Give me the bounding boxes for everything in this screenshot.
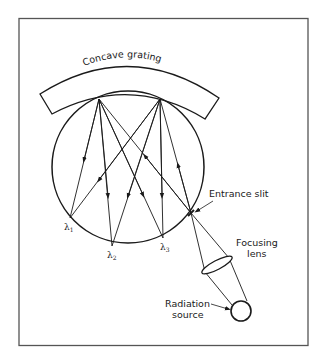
lambda1-subscript: 1 xyxy=(70,226,74,233)
focusing-lens-label-line1: Focusing xyxy=(236,237,278,248)
concave-grating-diagram: Concave grating Entrance slit Focusing l… xyxy=(0,0,327,359)
light-rays xyxy=(70,99,247,305)
radiation-source-label-line1: Radiation xyxy=(165,298,210,309)
focusing-lens xyxy=(200,253,234,277)
lambda2-label: λ2 xyxy=(107,250,117,261)
lambda3-label: λ3 xyxy=(160,242,170,253)
concave-grating xyxy=(40,66,219,119)
radiation-source-label-line2: source xyxy=(172,309,204,320)
grating-label: Concave grating xyxy=(81,48,163,67)
lambda1-label: λ1 xyxy=(64,222,74,233)
figure-frame xyxy=(19,19,308,346)
grating-label-text: Concave grating xyxy=(81,48,163,67)
radiation-source xyxy=(231,301,251,321)
entrance-slit-leader xyxy=(197,201,213,211)
entrance-slit-label: Entrance slit xyxy=(209,188,269,199)
rowland-circle xyxy=(52,91,204,243)
radiation-source-leader xyxy=(211,304,228,309)
focusing-lens-label-line2: lens xyxy=(247,248,267,259)
lambda3-subscript: 3 xyxy=(166,246,170,253)
lambda2-subscript: 2 xyxy=(113,254,117,261)
